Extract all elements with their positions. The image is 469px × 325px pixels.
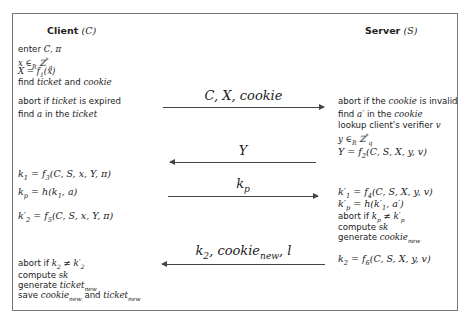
- label: lookup client's verifier: [338, 120, 433, 130]
- cookie-var: cookie: [389, 96, 417, 106]
- client-header: Client (C): [47, 26, 96, 36]
- client-step-find: find ticket and cookie: [18, 77, 112, 87]
- client-step-find-a: find a in the ticket: [18, 109, 97, 119]
- new-subscript: new: [69, 295, 82, 302]
- arrowhead-left-icon: [169, 159, 175, 165]
- server-step-compute-sk: compute sk: [338, 222, 388, 232]
- label: save: [18, 290, 38, 300]
- label: abort if: [18, 258, 49, 268]
- ticket-var: ticket: [60, 280, 85, 290]
- arrowhead-right-icon: [319, 104, 325, 110]
- client-step-k1: k1 = f3(C, S, x, Y, π): [18, 169, 111, 183]
- label: is expired: [79, 96, 121, 106]
- label: abort if: [18, 96, 49, 106]
- message-2-label: Y: [170, 143, 316, 158]
- server-header-label: Server: [365, 25, 400, 36]
- server-step-generate-cookie: generate cookienew: [338, 232, 420, 246]
- label: in the: [45, 109, 70, 119]
- server-header: Server (S): [365, 26, 418, 36]
- cookie-var: cookie: [394, 109, 422, 119]
- new-subscript: new: [408, 237, 421, 244]
- message-3-arrow: [168, 196, 318, 197]
- label: abort if the: [338, 96, 386, 106]
- message-4-arrow: [162, 264, 325, 265]
- ticket-var: ticket: [52, 96, 77, 106]
- message-2-arrow: [170, 162, 316, 163]
- label: find: [18, 109, 34, 119]
- sk-var: sk: [379, 222, 389, 232]
- label: and: [65, 77, 81, 87]
- client-header-label: Client: [47, 25, 78, 36]
- client-step-enter: enter C, π: [18, 44, 61, 54]
- server-step-find-a: find a′ in the cookie: [338, 109, 422, 119]
- client-symbol: (C): [82, 25, 97, 36]
- client-step-abort-expired: abort if ticket is expired: [18, 96, 121, 106]
- label: generate: [18, 280, 57, 290]
- server-step-k2: k2 = f6(C, S, X, y, v): [338, 254, 431, 268]
- server-symbol: (S): [404, 25, 418, 36]
- message-3-label: kp: [168, 176, 318, 194]
- label: abort if: [338, 211, 369, 221]
- server-step-Y: Y = f2(C, S, X, y, v): [338, 147, 427, 161]
- arrowhead-left-icon: [161, 261, 167, 267]
- label: generate: [338, 232, 377, 242]
- sk-var: sk: [59, 270, 69, 280]
- cookie-var: cookie: [41, 290, 69, 300]
- client-step-kp: kp = h(k1, a): [18, 187, 77, 201]
- label: enter: [18, 44, 41, 54]
- label: in the: [367, 109, 392, 119]
- ticket-var: ticket: [37, 77, 62, 87]
- message-1-arrow: [163, 107, 324, 108]
- client-step-save: save cookienew and ticketnew: [18, 290, 141, 304]
- server-step-lookup: lookup client's verifier v: [338, 120, 441, 130]
- label: is invalid: [420, 96, 458, 106]
- new-subscript: new: [128, 295, 141, 302]
- arrowhead-right-icon: [313, 193, 319, 199]
- label: compute: [18, 270, 56, 280]
- client-step-compute-sk: compute sk: [18, 270, 68, 280]
- message-4-label: k2, cookienew, l: [162, 243, 325, 261]
- message-1-label: C, X, cookie: [163, 88, 324, 103]
- ticket-var: ticket: [103, 290, 128, 300]
- label: and: [84, 290, 100, 300]
- label: find: [18, 77, 34, 87]
- cookie-var: cookie: [380, 232, 408, 242]
- client-step-k2prime: k′2 = f5(C, S, x, Y, π): [18, 211, 113, 225]
- label: compute: [338, 222, 376, 232]
- server-step-abort-cookie: abort if the cookie is invalid: [338, 96, 458, 106]
- ticket-var: ticket: [72, 109, 97, 119]
- label: find: [338, 109, 354, 119]
- cookie-var: cookie: [83, 77, 111, 87]
